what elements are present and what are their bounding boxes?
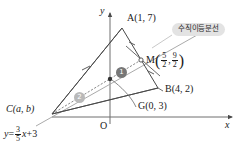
m-close-paren: ) (179, 52, 184, 69)
equation-intercept: +3 (27, 128, 38, 139)
x-axis-label: x (225, 120, 229, 130)
ratio-marker-one: 1 (116, 67, 127, 78)
median-c-to-m (52, 60, 141, 114)
point-g-centroid (108, 77, 112, 81)
m-fraction-x: 52 (161, 52, 167, 70)
geometry-figure: y x O A(1, 7) B(4, 2) C(a, b) G(0, 3) M(… (0, 0, 244, 146)
tag-leader-line (152, 35, 172, 48)
point-label-m: M(52,92) (146, 52, 184, 70)
point-m-midpoint (139, 58, 143, 62)
point-label-b: B(4, 2) (165, 84, 193, 94)
point-label-c: C(a, b) (6, 104, 34, 114)
m-prefix: M (146, 54, 155, 65)
b-leader-line (158, 88, 163, 91)
segment-c-to-a (52, 28, 122, 114)
point-label-g: G(0, 3) (138, 101, 167, 111)
line-equation-label: y=35x+3 (4, 126, 37, 144)
y-axis-label: y (100, 6, 104, 16)
equation-slope-fraction: 35 (15, 126, 21, 144)
g-leader-curve (112, 80, 136, 107)
equation-equals: = (8, 128, 14, 139)
perpendicular-bisector-tag: 수직이등분선 (172, 23, 225, 36)
origin-label: O (100, 121, 107, 131)
point-label-a: A(1, 7) (127, 13, 156, 23)
m-separator: , (168, 54, 171, 65)
m-fraction-y: 92 (172, 52, 178, 70)
ratio-marker-two: 2 (74, 92, 85, 103)
m-open-paren: ( (155, 52, 160, 69)
